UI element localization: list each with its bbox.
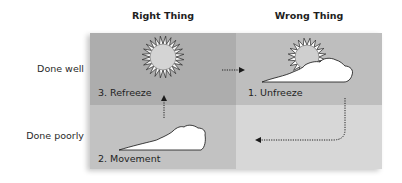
sun-icon	[142, 36, 184, 78]
cloud-icon	[119, 125, 205, 150]
step-label-unfreeze: 1. Unfreeze	[248, 87, 303, 98]
step-label-refreeze: 3. Refreeze	[98, 87, 152, 98]
step-label-movement: 2. Movement	[98, 153, 160, 164]
diagram-graphics	[0, 0, 402, 183]
sun-behind-cloud-icon	[262, 38, 353, 82]
arrow-unfreeze-to-movement	[258, 98, 345, 140]
